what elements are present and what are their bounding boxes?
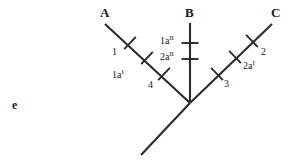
char-3-text: 3	[224, 78, 229, 89]
char-1-text: 1	[112, 46, 117, 57]
taxon-label-b: B	[185, 6, 194, 19]
char-1a-i-superscript: I	[121, 68, 123, 76]
figure-panel: A B C 11aI41aII2aII22aI3 e	[0, 0, 295, 162]
char-2a-i-label: 2aI	[243, 61, 255, 71]
branch-line-c	[190, 24, 272, 103]
char-1-label: 1	[112, 47, 117, 57]
char-2a-ii-superscript: II	[169, 50, 173, 58]
char-1a-i-label: 1aI	[112, 70, 124, 80]
char-1a-ii-label: 1aII	[160, 36, 174, 46]
char-2-text: 2	[261, 46, 266, 57]
char-1a-ii-superscript: II	[169, 34, 173, 42]
tick-mark-c-3	[246, 35, 258, 47]
char-2a-ii-label: 2aII	[160, 52, 174, 62]
char-4-label: 4	[148, 80, 153, 90]
char-2a-i-superscript: I	[252, 59, 254, 67]
char-3-label: 3	[224, 79, 229, 89]
branch-line-a	[105, 24, 190, 103]
panel-label: e	[12, 99, 17, 111]
char-4-text: 4	[148, 79, 153, 90]
taxon-label-c: C	[271, 6, 281, 19]
char-2-label: 2	[261, 47, 266, 57]
stem-line	[141, 103, 190, 155]
taxon-label-a: A	[100, 6, 110, 19]
